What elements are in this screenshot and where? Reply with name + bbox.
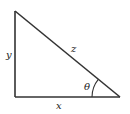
angle-theta-arc xyxy=(92,79,98,97)
hypotenuse-z-label: z xyxy=(71,44,76,54)
hypotenuse-z-line xyxy=(15,11,120,97)
side-y-label: y xyxy=(6,50,12,60)
angle-theta-label: θ xyxy=(84,82,90,92)
side-x-label: x xyxy=(56,101,62,111)
right-triangle-diagram xyxy=(0,0,130,114)
